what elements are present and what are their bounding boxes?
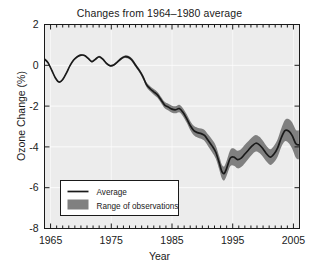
x-tick-label: 1995: [221, 234, 245, 246]
x-tick-label: 1975: [100, 234, 124, 246]
y-tick-label: -6: [29, 181, 38, 193]
y-tick-labels: 20-2-4-6-8: [29, 18, 39, 234]
y-tick-label: 2: [33, 18, 39, 30]
x-tick-labels: 19651975198519952005: [39, 234, 305, 246]
legend-label-range: Range of observations: [97, 202, 179, 211]
x-tick-label: 1985: [160, 234, 184, 246]
ozone-change-chart-figure: Changes from 1964–1980 average Ozone Cha…: [0, 0, 319, 270]
chart-legend: AverageRange of observations: [61, 181, 179, 216]
x-tick-label: 2005: [282, 234, 306, 246]
legend-swatch-range: [68, 200, 89, 210]
y-tick-label: -8: [29, 222, 38, 234]
x-tick-label: 1965: [39, 234, 63, 246]
y-tick-label: 0: [33, 59, 39, 71]
y-tick-label: -4: [29, 141, 38, 153]
plot-area: 20-2-4-6-8 19651975198519952005 AverageR…: [0, 0, 319, 270]
y-tick-label: -2: [29, 100, 38, 112]
legend-label-average: Average: [97, 188, 128, 197]
